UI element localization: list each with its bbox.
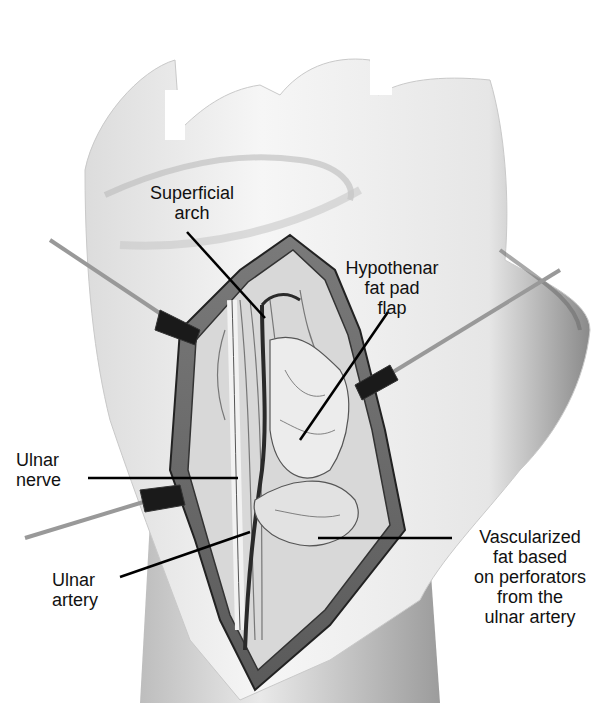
label-ulnar-nerve: Ulnar nerve bbox=[16, 450, 86, 490]
label-vascularized-fat: Vascularized fat based on perforators fr… bbox=[450, 527, 610, 627]
label-ulnar-artery: Ulnar artery bbox=[52, 570, 122, 610]
label-superficial-arch: Superficial arch bbox=[132, 183, 252, 223]
label-hypothenar-fat-pad-flap: Hypothenar fat pad flap bbox=[332, 258, 452, 318]
illustration: Superficial arch Hypothenar fat pad flap… bbox=[0, 0, 613, 703]
